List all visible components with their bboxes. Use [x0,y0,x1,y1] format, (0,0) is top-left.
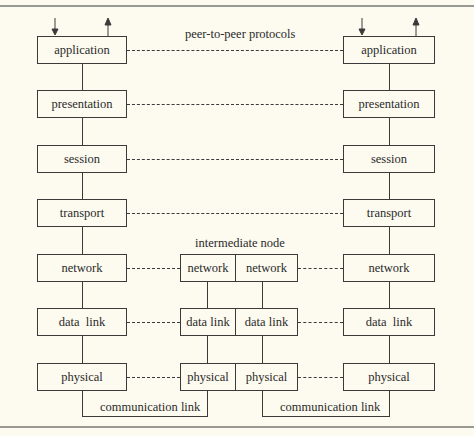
peer-link-network-left [127,268,180,269]
comm-link-right-base [262,416,390,417]
left-transport-layer: transport [37,199,127,227]
peer-link-data-link-right [298,322,343,323]
peer-link-physical-left [127,377,180,378]
peer-link-transport [127,213,343,214]
left-presentation-layer: presentation [37,90,127,118]
peer-link-network-right [298,268,343,269]
peer-link-application [127,50,343,51]
right-data-link-layer: data link [343,308,435,336]
intermediate-data-link-right: data link [235,308,298,336]
right-network-layer: network [343,254,435,282]
peer-link-presentation [127,104,343,105]
peer-to-peer-label: peer-to-peer protocols [185,27,295,42]
comm-link-right-drop-b [389,390,390,416]
comm-link-right-drop-a [262,390,263,416]
peer-link-physical-right [298,377,343,378]
left-physical-layer: physical [37,363,127,391]
peer-link-session [127,159,343,160]
comm-link-right-label: communication link [280,400,380,415]
intermediate-network-right: network [235,254,298,282]
right-application-layer: application [343,36,435,64]
comm-link-left-drop-b [207,390,208,416]
peer-link-data-link-left [127,322,180,323]
comm-link-left-label: communication link [100,400,200,415]
comm-link-left-drop-a [82,390,83,416]
left-application-layer: application [37,36,127,64]
intermediate-node-label: intermediate node [195,236,285,251]
intermediate-physical-left: physical [180,363,236,391]
right-physical-layer: physical [343,363,435,391]
intermediate-network-left: network [180,254,236,282]
intermediate-physical-right: physical [235,363,298,391]
right-presentation-layer: presentation [343,90,435,118]
right-transport-layer: transport [343,199,435,227]
intermediate-data-link-left: data link [180,308,236,336]
left-session-layer: session [37,145,127,173]
right-session-layer: session [343,145,435,173]
left-data-link-layer: data link [37,308,127,336]
left-network-layer: network [37,254,127,282]
comm-link-left-base [82,416,208,417]
